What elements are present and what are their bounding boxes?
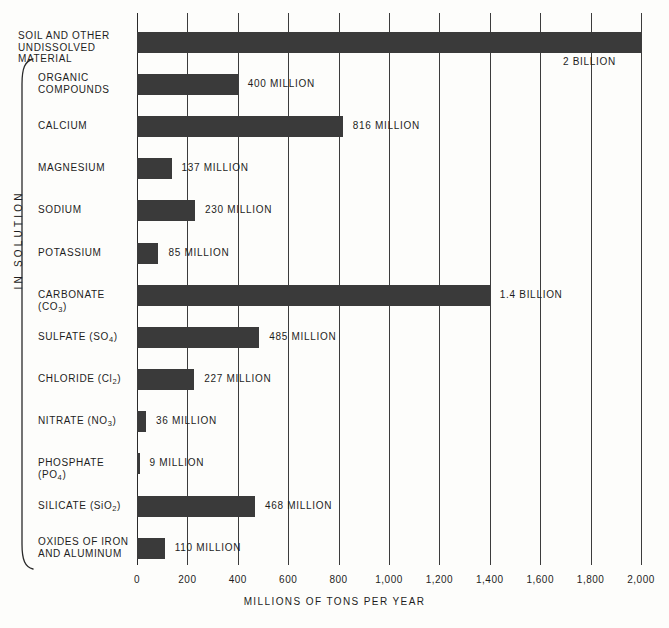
category-label: MAGNESIUM — [38, 162, 134, 174]
x-tick-label: 200 — [178, 574, 196, 585]
data-label: 230 MILLION — [205, 204, 272, 215]
bar — [137, 158, 172, 179]
category-label: CHLORIDE (Cl2) — [38, 373, 134, 386]
bar — [137, 74, 238, 95]
category-label: SODIUM — [38, 204, 134, 216]
bar — [137, 243, 158, 264]
bar — [137, 369, 194, 390]
data-label: 227 MILLION — [204, 373, 271, 384]
x-tick-label: 400 — [229, 574, 247, 585]
x-tick-label: 1,200 — [426, 574, 454, 585]
bar — [137, 285, 490, 306]
bar — [137, 116, 343, 137]
data-label: 36 MILLION — [156, 415, 217, 426]
data-label: 1.4 BILLION — [500, 289, 563, 300]
data-label: 9 MILLION — [150, 457, 205, 468]
category-label: CARBONATE (CO3) — [38, 289, 134, 313]
category-label: NITRATE (NO3) — [38, 415, 134, 428]
data-label: 110 MILLION — [175, 542, 241, 553]
data-label: 468 MILLION — [265, 500, 332, 511]
data-label: 137 MILLION — [182, 162, 249, 173]
data-label: 816 MILLION — [353, 120, 420, 131]
bar — [137, 538, 165, 559]
gridline-1800 — [591, 13, 592, 565]
x-tick-label: 0 — [134, 574, 140, 585]
x-axis-title: MILLIONS OF TONS PER YEAR — [0, 596, 669, 607]
data-label: 85 MILLION — [168, 247, 229, 258]
x-tick-label: 1,000 — [375, 574, 403, 585]
x-tick-label: 800 — [330, 574, 348, 585]
in-solution-label: IN SOLUTION — [13, 194, 24, 290]
category-label: ORGANICCOMPOUNDS — [38, 72, 134, 95]
x-tick-label: 1,600 — [526, 574, 554, 585]
x-tick-label: 1,400 — [476, 574, 504, 585]
category-label: CALCIUM — [38, 120, 134, 132]
gridline-2000 — [641, 13, 642, 565]
bar — [137, 496, 255, 517]
category-label: SOIL AND OTHERUNDISSOLVED MATERIAL — [18, 30, 136, 65]
x-tick-label: 600 — [279, 574, 297, 585]
x-tick-label: 1,800 — [577, 574, 605, 585]
bar — [137, 411, 146, 432]
bar — [137, 200, 195, 221]
category-label: SULFATE (SO4) — [38, 331, 134, 344]
category-label: OXIDES OF IRONAND ALUMINUM — [38, 536, 134, 559]
data-label: 485 MILLION — [269, 331, 336, 342]
data-label: 400 MILLION — [248, 78, 315, 89]
bar — [137, 453, 140, 474]
x-tick-label: 2,000 — [627, 574, 655, 585]
category-label: POTASSIUM — [38, 247, 134, 259]
bar-chart: SOIL AND OTHERUNDISSOLVED MATERIALORGANI… — [0, 0, 669, 628]
bar — [137, 327, 259, 348]
plot-area — [137, 13, 641, 565]
in-solution-bracket — [20, 58, 34, 570]
gridline-1400 — [490, 13, 491, 565]
category-label: SILICATE (SiO2) — [38, 500, 134, 513]
data-label: 2 BILLION — [563, 56, 616, 67]
category-label: PHOSPHATE (PO4) — [38, 457, 134, 481]
bar — [137, 32, 641, 53]
